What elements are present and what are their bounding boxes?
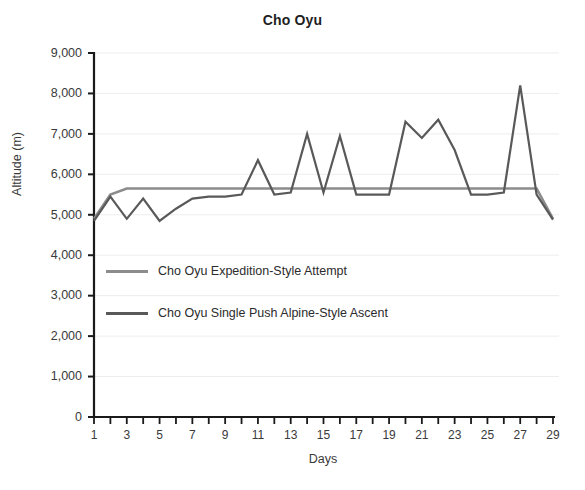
y-axis-ticks: 01,0002,0003,0004,0005,0006,0007,0008,00…	[51, 46, 94, 424]
legend-item-alpine-style[interactable]: Cho Oyu Single Push Alpine-Style Ascent	[106, 306, 388, 320]
x-tick-label: 13	[284, 428, 298, 442]
legend-item-expedition-style[interactable]: Cho Oyu Expedition-Style Attempt	[106, 264, 347, 278]
y-tick-label: 1,000	[51, 369, 82, 383]
chart-container: Cho Oyu Altitude (m) Days 01,0002,0003,0…	[0, 0, 585, 490]
legend-label-0: Cho Oyu Expedition-Style Attempt	[158, 264, 347, 278]
y-tick-label: 5,000	[51, 208, 82, 222]
y-tick-label: 4,000	[51, 248, 82, 262]
x-tick-label: 27	[514, 428, 528, 442]
y-tick-label: 2,000	[51, 329, 82, 343]
x-tick-label: 17	[350, 428, 364, 442]
data-series	[94, 85, 553, 220]
x-tick-label: 23	[448, 428, 462, 442]
y-axis-label: Altitude (m)	[10, 109, 24, 219]
x-tick-label: 21	[415, 428, 429, 442]
x-tick-label: 29	[546, 428, 560, 442]
x-tick-label: 11	[252, 428, 265, 442]
x-tick-label: 1	[91, 428, 98, 442]
x-tick-label: 19	[382, 428, 396, 442]
x-tick-label: 9	[222, 428, 229, 442]
legend-swatch-icon-1	[106, 312, 148, 315]
x-tick-label: 15	[317, 428, 331, 442]
y-tick-label: 7,000	[51, 127, 82, 141]
x-tick-label: 5	[156, 428, 163, 442]
y-tick-label: 3,000	[51, 288, 82, 302]
y-tick-label: 8,000	[51, 86, 82, 100]
legend-label-1: Cho Oyu Single Push Alpine-Style Ascent	[158, 306, 388, 320]
gridlines	[94, 53, 559, 417]
x-axis-label: Days	[93, 452, 553, 466]
x-tick-label: 7	[189, 428, 196, 442]
plot-area: 01,0002,0003,0004,0005,0006,0007,0008,00…	[0, 0, 585, 490]
y-tick-label: 9,000	[51, 46, 82, 60]
x-tick-label: 3	[123, 428, 130, 442]
x-tick-label: 25	[481, 428, 495, 442]
y-tick-label: 0	[75, 410, 82, 424]
series-line-1	[94, 85, 553, 220]
legend-swatch-icon-0	[106, 270, 148, 273]
y-tick-label: 6,000	[51, 167, 82, 181]
x-axis-ticks: 1357911131517192123252729	[91, 417, 560, 442]
chart-title: Cho Oyu	[0, 12, 585, 28]
axis-lines	[93, 52, 555, 418]
